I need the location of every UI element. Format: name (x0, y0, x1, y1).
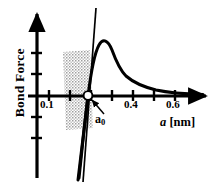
x-tick-label-0.6: 0.6 (166, 99, 180, 110)
bond-force-figure: Bond Force a [nm] 0.1 0.4 0.6 a0 (0, 0, 221, 185)
bond-force-curve (79, 41, 203, 178)
x-tick-label-0.4: 0.4 (124, 99, 138, 110)
a0-marker-circle (84, 91, 93, 100)
a0-annotation-label: a0 (95, 113, 105, 127)
a0-annotation-subscript: 0 (101, 117, 105, 127)
x-axis-title-symbol: a (160, 115, 166, 129)
y-axis-title: Bond Force (13, 38, 27, 128)
x-tick-label-0.1: 0.1 (40, 99, 54, 110)
plot-canvas (0, 0, 221, 185)
x-axis-title: a [nm] (160, 116, 195, 129)
x-axis-title-unit: [nm] (169, 115, 195, 129)
